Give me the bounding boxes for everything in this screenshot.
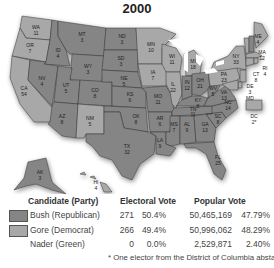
- electoral-header: Electoral Vote: [120, 196, 176, 206]
- svg-text:8: 8: [135, 119, 138, 125]
- svg-text:3: 3: [120, 61, 123, 67]
- electoral-pct: 0.0%: [140, 239, 166, 249]
- popular-header: Popular Vote: [194, 196, 246, 206]
- electoral-pct: 50.4%: [140, 210, 166, 220]
- svg-text:7: 7: [173, 127, 176, 133]
- bush-swatch: [9, 210, 28, 222]
- popular-pct: 2.40%: [238, 239, 270, 249]
- us-electoral-map: WA11 OR7 CA54 ID4 NV4 MT3 WY3 UT5 CO8 AZ…: [0, 14, 274, 194]
- state-CT: [246, 58, 254, 66]
- candidate-header: Candidate (Party): [28, 196, 98, 206]
- svg-text:8: 8: [217, 119, 220, 125]
- svg-text:8: 8: [197, 103, 200, 109]
- electoral-votes: 266: [110, 225, 134, 235]
- popular-pct: 48.29%: [238, 225, 270, 235]
- svg-text:11: 11: [169, 59, 174, 65]
- svg-text:9: 9: [159, 143, 162, 149]
- popular-votes: 2,529,871: [180, 239, 232, 249]
- svg-text:12: 12: [259, 55, 265, 61]
- svg-text:11: 11: [33, 30, 38, 36]
- svg-text:8: 8: [94, 93, 97, 99]
- svg-text:MD: MD: [246, 95, 254, 101]
- state-KY: [176, 96, 208, 106]
- svg-text:3: 3: [121, 39, 124, 45]
- state-DC-inset: [246, 100, 262, 110]
- electoral-pct: 49.4%: [140, 225, 166, 235]
- candidate-name: Nader (Green): [30, 239, 85, 249]
- svg-text:3: 3: [81, 37, 84, 43]
- svg-text:6: 6: [129, 97, 132, 103]
- svg-text:5: 5: [65, 88, 68, 94]
- popular-pct: 47.79%: [238, 210, 270, 220]
- svg-text:18: 18: [190, 64, 196, 70]
- svg-text:2*: 2*: [252, 119, 257, 125]
- svg-text:21: 21: [197, 83, 203, 89]
- candidate-name: Gore (Democrat): [30, 225, 94, 235]
- svg-text:11: 11: [155, 99, 160, 105]
- legend-row-gore: Gore (Democrat) 266 49.4% 50,996,062 48.…: [0, 225, 274, 237]
- svg-text:54: 54: [21, 91, 27, 97]
- legend-row-bush: Bush (Republican) 271 50.4% 50,465,169 4…: [0, 210, 274, 222]
- svg-text:3: 3: [87, 69, 90, 75]
- footnote: * One elector from the District of Colum…: [108, 253, 274, 262]
- svg-text:9: 9: [186, 127, 189, 133]
- svg-text:25: 25: [215, 160, 221, 166]
- svg-text:32: 32: [124, 149, 130, 155]
- svg-text:33: 33: [233, 59, 239, 65]
- popular-votes: 50,996,062: [180, 225, 232, 235]
- svg-text:13: 13: [221, 95, 227, 101]
- svg-text:4: 4: [95, 185, 98, 191]
- svg-text:7: 7: [29, 48, 32, 54]
- electoral-votes: 0: [110, 239, 134, 249]
- svg-text:23: 23: [221, 77, 227, 83]
- svg-text:7: 7: [152, 75, 155, 81]
- state-DE: [238, 82, 242, 88]
- svg-text:22: 22: [170, 87, 176, 93]
- svg-text:13: 13: [202, 127, 208, 133]
- svg-text:8: 8: [255, 77, 258, 83]
- state-RI: [254, 58, 258, 64]
- svg-text:10: 10: [148, 47, 154, 53]
- svg-text:5: 5: [123, 81, 126, 87]
- state-NH: [249, 36, 254, 52]
- svg-text:14: 14: [225, 105, 231, 111]
- candidate-name: Bush (Republican): [30, 210, 100, 220]
- svg-text:6: 6: [159, 121, 162, 127]
- svg-text:4: 4: [57, 53, 60, 59]
- state-NY: [210, 46, 246, 72]
- svg-text:4: 4: [41, 81, 44, 87]
- svg-text:4: 4: [264, 71, 267, 77]
- svg-text:5: 5: [89, 121, 92, 127]
- svg-text:12: 12: [184, 85, 190, 91]
- svg-text:3: 3: [39, 175, 42, 181]
- state-NJ: [240, 70, 246, 82]
- svg-text:8: 8: [61, 119, 64, 125]
- svg-text:11: 11: [190, 111, 195, 117]
- electoral-votes: 271: [110, 210, 134, 220]
- gore-swatch: [9, 225, 28, 237]
- svg-text:5: 5: [212, 91, 215, 97]
- popular-votes: 50,465,169: [180, 210, 232, 220]
- svg-text:4: 4: [257, 39, 260, 45]
- legend-row-nader: Nader (Green) 0 0.0% 2,529,871 2.40%: [0, 239, 274, 251]
